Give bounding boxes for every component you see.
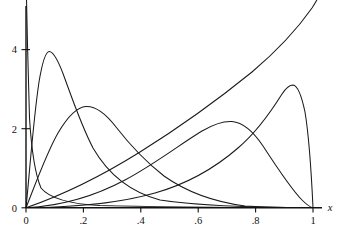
x-axis-label: x: [327, 202, 333, 213]
x-tick-label-0: 0: [23, 215, 28, 226]
curve-beta-peak-007: [26, 51, 313, 207]
curve-beta-peak-070: [26, 121, 313, 207]
curve-group: [26, 0, 321, 208]
curve-beta-spike-at-one: [26, 0, 321, 208]
x-tick-label-08: .8: [252, 215, 260, 226]
curve-beta-peak-090: [26, 85, 313, 208]
x-tick-label-1: 1: [310, 215, 315, 226]
x-tick-label-02: .2: [79, 215, 87, 226]
curve-beta-spike-at-zero: [26, 0, 313, 208]
y-tick-label-0: 0: [12, 203, 17, 214]
beta-density-chart: 0 2 4 0 .2 .4 .6 .8 1 x: [0, 0, 343, 233]
y-tick-label-2: 2: [12, 124, 17, 135]
x-tick-label-04: .4: [137, 215, 146, 226]
y-tick-label-4: 4: [12, 44, 18, 55]
plot-canvas: 0 2 4 0 .2 .4 .6 .8 1 x: [0, 0, 343, 233]
x-tick-label-06: .6: [194, 215, 202, 226]
